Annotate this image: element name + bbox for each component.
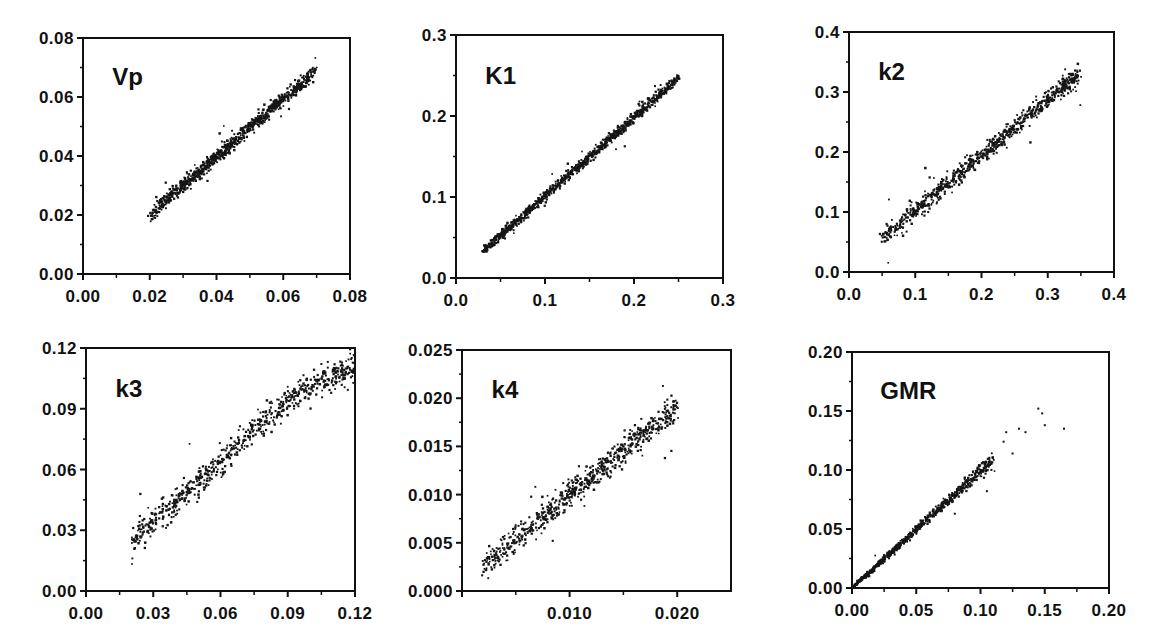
y-tick-label: 0.03: [42, 521, 77, 540]
y-tick-label: 0.3: [815, 83, 840, 102]
x-tick-label: 0.4: [1101, 285, 1126, 304]
y-tick-label: 0.2: [815, 143, 840, 162]
y-tick-label: 0.3: [422, 26, 447, 45]
panel-k3: 0.000.030.060.090.120.000.030.060.090.12…: [42, 339, 373, 623]
x-tick-label: 0.09: [270, 604, 305, 623]
panel-title: GMR: [880, 377, 936, 404]
x-tick-label: 0.1: [532, 291, 557, 310]
y-tick-label: 0.05: [808, 520, 843, 539]
x-tick-label: 0.020: [655, 604, 700, 623]
y-tick-label: 0.2: [422, 107, 447, 126]
scatter-points: [147, 57, 318, 222]
x-tick-label: 0.00: [68, 604, 103, 623]
x-tick-label: 0.00: [65, 287, 100, 306]
scatter-points: [879, 63, 1082, 264]
y-tick-label: 0.06: [42, 461, 77, 480]
y-tick-label: 0.005: [408, 534, 453, 553]
panel-vp: 0.000.020.040.060.080.000.020.040.060.08…: [39, 29, 368, 306]
y-tick-label: 0.10: [808, 461, 843, 480]
panel-k4: 0.0000.0050.0100.0150.0200.0250.0100.020…: [408, 341, 731, 623]
y-tick-label: 0.20: [808, 343, 843, 362]
x-tick-label: 0.10: [963, 601, 998, 620]
panel-title: k3: [116, 375, 143, 402]
x-tick-label: 0.010: [547, 604, 592, 623]
x-tick-label: 0.00: [834, 601, 869, 620]
x-tick-label: 0.06: [203, 604, 238, 623]
y-tick-label: 0.010: [408, 486, 453, 505]
panel-title: k2: [878, 58, 905, 85]
x-tick-label: 0.04: [199, 287, 234, 306]
x-tick-label: 0.05: [899, 601, 934, 620]
y-tick-label: 0.1: [422, 188, 447, 207]
x-tick-label: 0.2: [969, 285, 994, 304]
y-tick-label: 0.020: [408, 389, 453, 408]
x-tick-label: 0.03: [136, 604, 171, 623]
x-tick-label: 0.15: [1027, 601, 1062, 620]
x-tick-label: 0.1: [903, 285, 928, 304]
x-tick-label: 0.02: [132, 287, 167, 306]
x-tick-label: 0.0: [836, 285, 861, 304]
y-tick-label: 0.12: [42, 339, 77, 358]
panel-k1: 0.00.10.20.30.00.10.20.3K1: [422, 26, 736, 310]
panel-title: Vp: [112, 63, 143, 90]
y-tick-label: 0.000: [408, 582, 453, 601]
x-tick-label: 0.08: [332, 287, 367, 306]
y-tick-label: 0.06: [39, 88, 74, 107]
x-tick-label: 0.06: [266, 287, 301, 306]
scatter-points: [851, 408, 1065, 589]
x-tick-label: 0.20: [1091, 601, 1126, 620]
y-tick-label: 0.1: [815, 203, 840, 222]
x-tick-label: 0.3: [710, 291, 735, 310]
y-tick-label: 0.09: [42, 400, 77, 419]
y-tick-label: 0.025: [408, 341, 453, 360]
y-tick-label: 0.02: [39, 206, 74, 225]
x-tick-label: 0.0: [443, 291, 468, 310]
y-tick-label: 0.015: [408, 437, 453, 456]
y-tick-label: 0.00: [39, 265, 74, 284]
y-tick-label: 0.00: [42, 582, 77, 601]
x-tick-label: 0.12: [337, 604, 372, 623]
y-tick-label: 0.08: [39, 29, 74, 48]
panel-title: k4: [492, 376, 519, 403]
x-tick-label: 0.2: [621, 291, 646, 310]
y-tick-label: 0.04: [39, 147, 74, 166]
y-tick-label: 0.4: [815, 23, 840, 42]
figure-grid: 0.000.020.040.060.080.000.020.040.060.08…: [0, 0, 1152, 644]
scatter-points: [481, 74, 680, 253]
panel-gmr: 0.000.050.100.150.200.000.050.100.150.20…: [808, 343, 1127, 620]
scatter-points: [131, 348, 356, 565]
y-tick-label: 0.0: [422, 269, 447, 288]
x-tick-label: 0.3: [1035, 285, 1060, 304]
scatter-points: [481, 385, 679, 579]
panel-k2: 0.00.10.20.30.40.00.10.20.30.4k2: [815, 23, 1127, 304]
y-tick-label: 0.15: [808, 402, 843, 421]
y-tick-label: 0.00: [808, 579, 843, 598]
panel-title: K1: [485, 62, 516, 89]
y-tick-label: 0.0: [815, 263, 840, 282]
